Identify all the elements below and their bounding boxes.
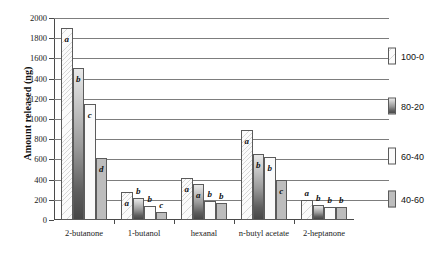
- bar-significance-letter: b: [217, 191, 227, 201]
- x-axis-category-label: 1-butanol: [128, 228, 161, 238]
- y-axis-tick: [49, 220, 54, 221]
- y-axis-tick: [49, 18, 54, 19]
- bar-group: abcd: [61, 18, 107, 220]
- x-axis-tick: [234, 220, 235, 224]
- bar-significance-letter: a: [302, 188, 312, 198]
- bar-significance-letter: b: [145, 194, 155, 204]
- bar-significance-letter: c: [277, 186, 287, 196]
- bar-significance-letter: c: [157, 200, 167, 210]
- bar: d: [96, 158, 108, 220]
- bar-significance-letter: b: [337, 195, 347, 205]
- y-axis-tick: [49, 58, 54, 59]
- plot-area: 0200400600800100012001400160018002000 ab…: [54, 18, 354, 220]
- bar: a: [241, 130, 253, 220]
- y-axis-tick: [49, 159, 54, 160]
- y-axis-tick: [49, 180, 54, 181]
- bar: b: [264, 157, 276, 220]
- y-axis-tick-label: 200: [34, 195, 47, 205]
- y-axis-tick-label: 800: [34, 134, 47, 144]
- bar-group: abbb: [301, 18, 347, 220]
- bar: a: [121, 192, 133, 220]
- bar: c: [156, 212, 168, 220]
- y-axis-tick: [49, 79, 54, 80]
- bar: b: [73, 68, 85, 220]
- bar-significance-letter: a: [62, 34, 72, 44]
- bar-significance-letter: a: [194, 190, 204, 200]
- bar-significance-letter: b: [205, 189, 215, 199]
- bar-significance-letter: a: [122, 198, 132, 208]
- legend-label: 40-60: [401, 194, 424, 204]
- x-axis-category-label: n-butyl acetate: [239, 228, 289, 238]
- y-axis-tick-label: 1000: [30, 114, 47, 124]
- bar: a: [61, 28, 73, 220]
- y-axis-tick: [49, 38, 54, 39]
- bar: b: [144, 206, 156, 220]
- bar-significance-letter: b: [265, 163, 275, 173]
- bar: b: [313, 205, 325, 220]
- x-axis-category-label: hexanal: [191, 228, 217, 238]
- x-axis-category-label: 2-butanone: [65, 228, 103, 238]
- legend-label: 60-40: [401, 151, 424, 161]
- bar-significance-letter: b: [314, 193, 324, 203]
- legend-item: 80-20: [388, 98, 424, 115]
- bar-significance-letter: b: [74, 74, 84, 84]
- y-axis-tick-label: 0: [43, 215, 47, 225]
- legend-swatch: [388, 48, 396, 65]
- x-axis-tick: [174, 220, 175, 224]
- y-axis-tick-label: 1600: [30, 53, 47, 63]
- y-axis-tick-label: 1200: [30, 94, 47, 104]
- legend-label: 80-20: [401, 101, 424, 111]
- y-axis-tick-label: 600: [34, 154, 47, 164]
- y-axis-tick: [49, 200, 54, 201]
- bar-significance-letter: c: [85, 110, 95, 120]
- bar: b: [324, 207, 336, 220]
- bar-significance-letter: a: [242, 136, 252, 146]
- x-axis-tick: [294, 220, 295, 224]
- y-axis-tick: [49, 99, 54, 100]
- bar: c: [84, 104, 96, 220]
- y-axis-tick: [49, 139, 54, 140]
- bar-group: aabb: [181, 18, 227, 220]
- y-axis-tick-label: 1800: [30, 33, 47, 43]
- bar: b: [204, 201, 216, 220]
- y-axis-tick-label: 1400: [30, 74, 47, 84]
- legend-item: 100-0: [388, 48, 424, 65]
- legend-swatch: [388, 148, 396, 165]
- bar-significance-letter: b: [254, 160, 264, 170]
- bar: b: [216, 203, 228, 220]
- bar: b: [336, 207, 348, 220]
- bar: b: [253, 154, 265, 220]
- bar-chart: Amount released (ng) 0200400600800100012…: [0, 0, 447, 260]
- x-axis-category-label: 2-heptanone: [303, 228, 345, 238]
- legend-swatch: [388, 98, 396, 115]
- x-axis-tick: [114, 220, 115, 224]
- y-axis-tick-label: 400: [34, 175, 47, 185]
- bar: a: [181, 178, 193, 220]
- legend-item: 40-60: [388, 191, 424, 208]
- bar: a: [301, 200, 313, 220]
- legend: 100-080-2060-4040-60: [388, 18, 446, 220]
- bar: b: [133, 198, 145, 220]
- legend-label: 100-0: [401, 51, 424, 61]
- bar-group: abbc: [121, 18, 167, 220]
- bar-significance-letter: d: [97, 164, 107, 174]
- y-axis-tick: [49, 119, 54, 120]
- bar-significance-letter: b: [325, 195, 335, 205]
- y-axis-tick-label: 2000: [30, 13, 47, 23]
- bar-significance-letter: b: [134, 186, 144, 196]
- bar: c: [276, 180, 288, 220]
- bar-group: abbc: [241, 18, 287, 220]
- legend-item: 60-40: [388, 148, 424, 165]
- bar-significance-letter: a: [182, 184, 192, 194]
- legend-swatch: [388, 191, 396, 208]
- bar: a: [193, 184, 205, 220]
